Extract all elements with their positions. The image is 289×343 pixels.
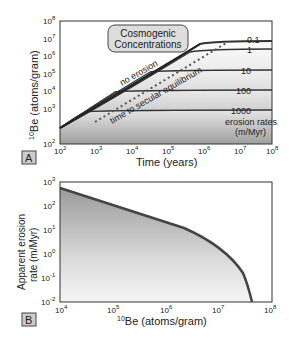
- svg-text:101: 101: [43, 224, 56, 235]
- erosion-area: [60, 188, 252, 302]
- rate-label-0: 0.1: [247, 35, 260, 45]
- svg-text:102: 102: [54, 145, 67, 156]
- y-axis-label-b-line1: Apparent erosion: [16, 214, 27, 290]
- x-axis-label-b: 10Be (atoms/gram): [117, 315, 207, 327]
- panel-label-b: B: [25, 314, 32, 326]
- svg-text:105: 105: [162, 145, 175, 156]
- rate-label-3: 100: [236, 86, 251, 96]
- panel-label-a: A: [25, 152, 33, 164]
- svg-text:103: 103: [43, 103, 56, 114]
- legend-title-2: (m/Myr): [235, 127, 266, 137]
- y-axis-ticks-b: 103 102 101 100 10-1 10-2: [41, 176, 56, 307]
- svg-text:107: 107: [43, 33, 56, 44]
- svg-text:108: 108: [43, 15, 56, 26]
- svg-text:108: 108: [266, 145, 279, 156]
- y-axis-label-a: 10Be (atoms/gram): [28, 50, 40, 140]
- svg-text:100: 100: [43, 248, 56, 259]
- figure: Cosmogenic Concentrations no erosion tim…: [0, 0, 289, 343]
- svg-text:107: 107: [234, 145, 247, 156]
- rate-label-2: 10: [241, 66, 251, 76]
- y-axis-label-b-line2: rate (m/Myr): [28, 228, 39, 282]
- svg-text:107: 107: [212, 304, 225, 315]
- svg-text:10-1: 10-1: [41, 272, 56, 283]
- svg-text:106: 106: [198, 145, 211, 156]
- svg-text:105: 105: [43, 68, 56, 79]
- x-axis-ticks-a: 102 103 104 105 106 107 108: [54, 145, 279, 156]
- x-axis-label-a: Time (years): [136, 156, 197, 168]
- rate-label-4: 1000: [231, 106, 251, 116]
- svg-text:106: 106: [160, 304, 173, 315]
- title-line2: Concentrations: [114, 39, 181, 50]
- svg-text:104: 104: [43, 85, 56, 96]
- svg-text:104: 104: [55, 304, 68, 315]
- svg-text:103: 103: [90, 145, 103, 156]
- svg-text:106: 106: [43, 50, 56, 61]
- svg-text:10-2: 10-2: [41, 296, 56, 307]
- svg-text:104: 104: [126, 145, 139, 156]
- svg-text:108: 108: [264, 304, 277, 315]
- legend-title-1: erosion rates: [225, 117, 278, 127]
- panel-a: Cosmogenic Concentrations no erosion tim…: [22, 15, 279, 168]
- svg-text:102: 102: [43, 200, 56, 211]
- panel-b: 103 102 101 100 10-1 10-2 104 105 106 10…: [16, 176, 277, 327]
- svg-text:103: 103: [43, 176, 56, 187]
- svg-text:105: 105: [107, 304, 120, 315]
- title-line1: Cosmogenic: [120, 28, 176, 39]
- y-axis-ticks-a: 108 107 106 105 104 103 102: [43, 15, 56, 149]
- x-axis-ticks-b: 104 105 106 107 108: [55, 304, 277, 315]
- rate-label-1: 1: [247, 45, 252, 55]
